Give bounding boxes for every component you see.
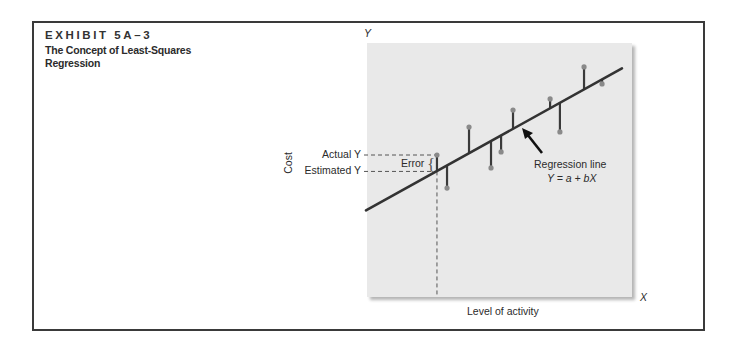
x-axis-letter: X: [640, 291, 647, 303]
arrow-shaft: [527, 134, 542, 153]
data-point: [557, 129, 562, 134]
x-axis-label: Level of activity: [467, 305, 539, 317]
arrow-head: [522, 128, 533, 139]
regression-line-label: Regression line: [534, 158, 606, 170]
regression-line-stroke: [366, 68, 622, 210]
error-label: Error: [401, 157, 424, 169]
chart-canvas: {: [0, 0, 737, 353]
data-point: [444, 185, 449, 190]
regression-arrow-icon: [522, 128, 542, 153]
data-point: [599, 81, 604, 86]
regression-equation: Y = a + bX: [547, 172, 596, 184]
estimated-y-label: Estimated Y: [305, 164, 361, 176]
actual-y-label: Actual Y: [322, 148, 361, 160]
data-point: [581, 64, 586, 69]
y-axis-letter: Y: [364, 27, 371, 39]
y-axis-label: Cost: [282, 143, 294, 183]
data-point: [488, 165, 493, 170]
data-point: [466, 124, 471, 129]
data-point: [498, 149, 503, 154]
data-point: [510, 107, 515, 112]
regression-line: [366, 68, 622, 210]
data-point: [548, 96, 553, 101]
error-brace-icon: {: [427, 155, 435, 174]
